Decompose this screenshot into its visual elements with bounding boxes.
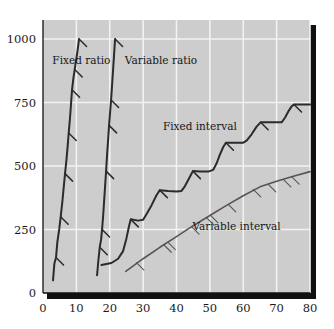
x-tick-label: 50 [203, 301, 218, 315]
series-label: Fixed ratio [52, 54, 110, 66]
y-axis-tick-labels: 02505007501000 [7, 32, 36, 300]
y-tick-label: 0 [29, 286, 36, 300]
chart-figure: 02505007501000 01020304050607080 Fixed r… [0, 0, 334, 329]
y-tick-label: 1000 [7, 32, 36, 46]
x-tick-label: 40 [169, 301, 184, 315]
series-label: Variable ratio [124, 54, 197, 66]
x-tick-label: 70 [269, 301, 284, 315]
cumulative-response-record-chart: 02505007501000 01020304050607080 Fixed r… [0, 0, 334, 329]
x-tick-label: 60 [236, 301, 251, 315]
x-tick-label: 0 [39, 301, 46, 315]
x-tick-label: 30 [136, 301, 151, 315]
series-label: Fixed interval [163, 120, 238, 132]
y-tick-label: 250 [14, 223, 36, 237]
x-tick-label: 10 [69, 301, 84, 315]
y-tick-label: 500 [14, 159, 36, 173]
y-tick-label: 750 [14, 96, 36, 110]
series-label: Variable interval [191, 220, 281, 232]
x-tick-label: 20 [102, 301, 117, 315]
x-tick-label: 80 [303, 301, 318, 315]
x-axis-tick-labels: 01020304050607080 [39, 301, 317, 315]
